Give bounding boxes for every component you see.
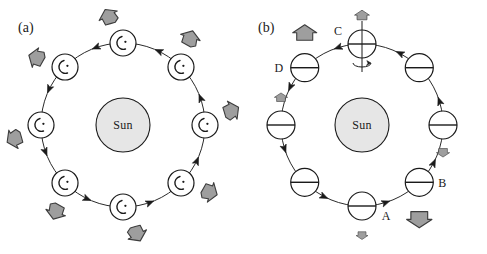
- direction-arrow: [293, 25, 317, 41]
- planet-dot-mark: [66, 181, 68, 183]
- planet-b-2[interactable]: [429, 111, 457, 157]
- planet-b-5[interactable]: [291, 168, 319, 196]
- planet-a-5[interactable]: [44, 170, 78, 222]
- orbit-arrowhead: [429, 158, 438, 168]
- direction-arrow: [356, 232, 368, 240]
- direction-arrow: [26, 46, 48, 70]
- planet-body: [168, 170, 194, 196]
- planet-body: [28, 112, 54, 138]
- direction-arrow: [219, 98, 243, 124]
- planet-dot-mark: [66, 65, 68, 67]
- planet-letter-A: A: [382, 209, 391, 223]
- sun-label-a: Sun: [113, 118, 133, 132]
- planet-b-7[interactable]: [291, 25, 319, 82]
- planet-dot-mark: [206, 123, 208, 125]
- planet-body: [110, 30, 136, 56]
- panel-label-a: (a): [18, 20, 34, 36]
- planet-body: [110, 194, 136, 220]
- planet-a-6[interactable]: [3, 112, 54, 152]
- planet-body: [192, 112, 218, 138]
- orbit-arrowhead: [192, 156, 201, 166]
- direction-arrow: [44, 201, 68, 223]
- panel-label-b: (b): [258, 20, 275, 36]
- planet-b-3[interactable]: [405, 168, 433, 228]
- orbit-arrowhead: [395, 49, 405, 58]
- planet-dot-mark: [124, 41, 126, 43]
- direction-arrow: [355, 10, 370, 20]
- orbit-arrowhead: [333, 43, 343, 52]
- planet-a-3[interactable]: [168, 170, 220, 204]
- orbit-arrowhead: [154, 47, 164, 56]
- planet-letter-D: D: [274, 61, 283, 75]
- direction-arrow: [178, 28, 202, 50]
- direction-arrow: [436, 149, 449, 158]
- direction-arrow: [3, 126, 27, 152]
- orbit-arrowhead: [280, 144, 289, 154]
- panel-b: (b)SunCBAD: [258, 10, 457, 239]
- orbit-arrowhead: [435, 96, 444, 106]
- figure-canvas: (a)Sun(b)SunCBAD: [0, 0, 487, 254]
- orbit-arrowhead: [381, 198, 391, 207]
- orbit-arrowhead: [196, 93, 205, 103]
- planet-a-7[interactable]: [26, 46, 78, 80]
- planet-b-4[interactable]: [348, 192, 376, 240]
- planet-body: [52, 54, 78, 80]
- planet-dot-mark: [182, 65, 184, 67]
- planet-dot-mark: [124, 205, 126, 207]
- sun-b: Sun: [335, 98, 389, 152]
- direction-arrow: [199, 180, 221, 204]
- planet-dot-mark: [182, 181, 184, 183]
- planet-dot-mark: [42, 123, 44, 125]
- orbit-arrowhead: [319, 192, 329, 201]
- orbit-arrowhead: [45, 84, 54, 94]
- orbit-arrowhead: [91, 43, 101, 52]
- planet-a-1[interactable]: [168, 28, 202, 80]
- planet-a-0[interactable]: [96, 5, 136, 56]
- planet-b-6[interactable]: [267, 93, 295, 139]
- planet-b-0[interactable]: [348, 10, 376, 72]
- planet-a-2[interactable]: [192, 98, 243, 138]
- orbit-arrowhead: [286, 82, 295, 92]
- direction-arrow: [274, 93, 287, 102]
- panel-a: (a)Sun: [3, 5, 244, 246]
- orbit-arrowhead: [145, 198, 155, 207]
- planet-body: [52, 170, 78, 196]
- orbit-arrowhead: [82, 194, 92, 203]
- planet-body: [168, 54, 194, 80]
- orbit-diagram-svg: (a)Sun(b)SunCBAD: [0, 0, 487, 254]
- sun-a: Sun: [96, 98, 150, 152]
- direction-arrow: [407, 212, 432, 228]
- orbit-arrowhead: [41, 147, 50, 157]
- planet-a-4[interactable]: [110, 194, 150, 245]
- direction-arrow: [96, 5, 122, 29]
- sun-label-b: Sun: [352, 118, 372, 132]
- planet-b-1[interactable]: [405, 54, 433, 82]
- planet-letter-C: C: [334, 24, 342, 38]
- direction-arrow: [124, 222, 150, 246]
- planet-letter-B: B: [438, 176, 446, 190]
